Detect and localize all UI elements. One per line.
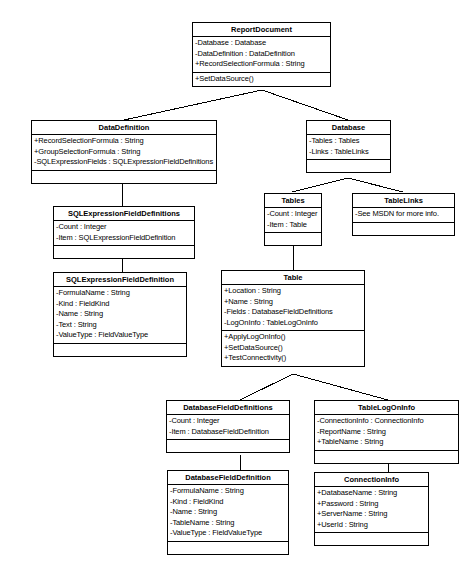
class-operations-table: +ApplyLogOnInfo() +SetDataSource() +Test… bbox=[222, 331, 364, 366]
operation: +SetDataSource() bbox=[195, 74, 329, 85]
class-attributes-sql-expression-field-definition: -FormulaName : String -Kind : FieldKind … bbox=[54, 287, 186, 344]
class-operations-database-field-definition bbox=[168, 542, 288, 554]
attribute: -Fields : DatabaseFieldDefinitions bbox=[224, 307, 363, 318]
class-name-sql-expression-field-definition: SQLExpressionFieldDefinition bbox=[54, 273, 186, 287]
edge-database-tables bbox=[292, 178, 348, 192]
class-name-database-field-definitions: DatabaseFieldDefinitions bbox=[167, 401, 289, 415]
class-box-sql-expression-field-definitions[interactable]: SQLExpressionFieldDefinitions -Count : I… bbox=[53, 206, 195, 259]
attribute: -Count : Integer bbox=[267, 209, 320, 220]
class-attributes-table-log-on-info: -ConnectionInfo : ConnectionInfo -Report… bbox=[315, 415, 458, 451]
attribute: -FormulaName : String bbox=[170, 486, 287, 497]
class-name-report-document: ReportDocument bbox=[193, 23, 330, 37]
class-operations-database bbox=[307, 160, 390, 172]
class-name-table-links: TableLinks bbox=[353, 194, 454, 208]
attribute: -ValueType : FieldValueType bbox=[56, 330, 185, 341]
attribute: +DatabaseName : String bbox=[317, 488, 427, 499]
attribute: -Item : SQLExpressionFieldDefinition bbox=[56, 233, 193, 244]
class-box-data-definition[interactable]: DataDefinition +RecordSelectionFormula :… bbox=[31, 120, 217, 184]
attribute: -ValueType : FieldValueType bbox=[170, 528, 287, 539]
attribute: -Text : String bbox=[56, 320, 185, 331]
edge-database-tablelinks bbox=[348, 178, 403, 192]
class-box-database-field-definition[interactable]: DatabaseFieldDefinition -FormulaName : S… bbox=[167, 470, 289, 555]
class-name-sql-expression-field-definitions: SQLExpressionFieldDefinitions bbox=[54, 207, 194, 221]
class-box-table[interactable]: Table +Location : String +Name : String … bbox=[221, 270, 365, 367]
attribute: -SQLExpressionFields : SQLExpressionFiel… bbox=[34, 157, 215, 168]
attribute: -Kind : FieldKind bbox=[170, 497, 287, 508]
class-attributes-database: -Tables : Tables -Links : TableLinks bbox=[307, 135, 390, 160]
class-operations-data-definition bbox=[32, 171, 216, 183]
class-name-database: Database bbox=[307, 121, 390, 135]
class-operations-tables bbox=[265, 233, 321, 245]
class-name-data-definition: DataDefinition bbox=[32, 121, 216, 135]
class-box-database-field-definitions[interactable]: DatabaseFieldDefinitions -Count : Intege… bbox=[166, 400, 290, 453]
attribute: -Count : Integer bbox=[169, 416, 288, 427]
attribute: +RecordSelectionFormula : String bbox=[195, 59, 329, 70]
class-box-table-log-on-info[interactable]: TableLogOnInfo -ConnectionInfo : Connect… bbox=[314, 400, 459, 464]
edge-reportdocument-datadefinition bbox=[124, 90, 262, 120]
class-attributes-connection-info: +DatabaseName : String +Password : Strin… bbox=[315, 487, 428, 533]
attribute: +Location : String bbox=[224, 286, 363, 297]
class-attributes-data-definition: +RecordSelectionFormula : String +GroupS… bbox=[32, 135, 216, 171]
attribute: -Item : DatabaseFieldDefinition bbox=[169, 427, 288, 438]
class-attributes-report-document: -Database : Database -DataDefinition : D… bbox=[193, 37, 330, 73]
attribute: -Tables : Tables bbox=[309, 136, 389, 147]
class-box-tables[interactable]: Tables -Count : Integer -Item : Table bbox=[264, 193, 322, 246]
class-attributes-sql-expression-field-definitions: -Count : Integer -Item : SQLExpressionFi… bbox=[54, 221, 194, 246]
class-operations-table-links bbox=[353, 223, 454, 235]
attribute: -Name : String bbox=[170, 507, 287, 518]
attribute: -ReportName : String bbox=[317, 427, 457, 438]
attribute: +RecordSelectionFormula : String bbox=[34, 136, 215, 147]
class-name-table: Table bbox=[222, 271, 364, 285]
class-box-table-links[interactable]: TableLinks -See MSDN for more info. bbox=[352, 193, 455, 236]
class-operations-sql-expression-field-definitions bbox=[54, 246, 194, 258]
attribute: -Name : String bbox=[56, 309, 185, 320]
class-box-report-document[interactable]: ReportDocument -Database : Database -Dat… bbox=[192, 22, 331, 87]
attribute: +TableName : String bbox=[317, 437, 457, 448]
uml-class-diagram-canvas: ReportDocument -Database : Database -Dat… bbox=[0, 0, 471, 568]
operation: +TestConnectivity() bbox=[224, 353, 363, 364]
attribute: -Links : TableLinks bbox=[309, 147, 389, 158]
class-box-connection-info[interactable]: ConnectionInfo +DatabaseName : String +P… bbox=[314, 472, 429, 546]
class-name-table-log-on-info: TableLogOnInfo bbox=[315, 401, 458, 415]
attribute: -TableName : String bbox=[170, 518, 287, 529]
class-attributes-table: +Location : String +Name : String -Field… bbox=[222, 285, 364, 331]
attribute: -Item : Table bbox=[267, 220, 320, 231]
class-name-connection-info: ConnectionInfo bbox=[315, 473, 428, 487]
class-attributes-database-field-definitions: -Count : Integer -Item : DatabaseFieldDe… bbox=[167, 415, 289, 440]
class-operations-table-log-on-info bbox=[315, 451, 458, 463]
edge-table-databasefielddefs bbox=[240, 374, 293, 400]
edge-reportdocument-database bbox=[262, 90, 348, 120]
class-box-sql-expression-field-definition[interactable]: SQLExpressionFieldDefinition -FormulaNam… bbox=[53, 272, 187, 357]
operation: +ApplyLogOnInfo() bbox=[224, 332, 363, 343]
attribute: -See MSDN for more info. bbox=[355, 209, 453, 220]
attribute: +Password : String bbox=[317, 499, 427, 510]
class-attributes-tables: -Count : Integer -Item : Table bbox=[265, 208, 321, 233]
class-operations-sql-expression-field-definition bbox=[54, 344, 186, 356]
attribute: +Name : String bbox=[224, 297, 363, 308]
class-operations-database-field-definitions bbox=[167, 440, 289, 452]
attribute: +UserId : String bbox=[317, 520, 427, 531]
attribute: -LogOnInfo : TableLogOnInfo bbox=[224, 318, 363, 329]
class-attributes-table-links: -See MSDN for more info. bbox=[353, 208, 454, 223]
operation: +SetDataSource() bbox=[224, 343, 363, 354]
edge-table-tablelogoninfo bbox=[293, 374, 388, 400]
attribute: +ServerName : String bbox=[317, 509, 427, 520]
attribute: -DataDefinition : DataDefinition bbox=[195, 49, 329, 60]
attribute: -Count : Integer bbox=[56, 222, 193, 233]
attribute: -ConnectionInfo : ConnectionInfo bbox=[317, 416, 457, 427]
class-operations-report-document: +SetDataSource() bbox=[193, 73, 330, 87]
class-name-database-field-definition: DatabaseFieldDefinition bbox=[168, 471, 288, 485]
attribute: -Kind : FieldKind bbox=[56, 299, 185, 310]
attribute: -Database : Database bbox=[195, 38, 329, 49]
attribute: +GroupSelectionFormula : String bbox=[34, 147, 215, 158]
class-attributes-database-field-definition: -FormulaName : String -Kind : FieldKind … bbox=[168, 485, 288, 542]
class-name-tables: Tables bbox=[265, 194, 321, 208]
class-operations-connection-info bbox=[315, 533, 428, 545]
attribute: -FormulaName : String bbox=[56, 288, 185, 299]
class-box-database[interactable]: Database -Tables : Tables -Links : Table… bbox=[306, 120, 391, 173]
